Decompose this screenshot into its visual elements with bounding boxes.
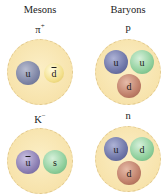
baryons-header: Baryons xyxy=(93,4,163,15)
quark-d: d xyxy=(130,137,154,161)
proton-label: p xyxy=(108,22,148,33)
quark-d: d xyxy=(117,74,141,98)
antiquark-u: u xyxy=(16,150,40,174)
particle-symbol: K xyxy=(34,114,42,125)
pi-plus-bag: u d xyxy=(7,39,73,105)
proton-bag: u u d xyxy=(95,39,161,105)
neutron-bag: u d d xyxy=(95,126,161,192)
neutron-label: n xyxy=(108,110,148,121)
mesons-header: Mesons xyxy=(5,4,75,15)
quark-u: u xyxy=(130,50,154,74)
k-minus-label: K− xyxy=(20,112,60,125)
antiquark-d: d xyxy=(44,63,64,83)
quark-s: s xyxy=(43,150,67,174)
pi-plus-label: π+ xyxy=(20,22,60,35)
charge: − xyxy=(42,112,46,120)
quark-u: u xyxy=(104,50,128,74)
quark-u: u xyxy=(104,137,128,161)
quark-u: u xyxy=(16,61,40,85)
quark-d: d xyxy=(117,161,141,185)
k-minus-bag: u s xyxy=(7,128,73,194)
charge: + xyxy=(41,22,45,30)
